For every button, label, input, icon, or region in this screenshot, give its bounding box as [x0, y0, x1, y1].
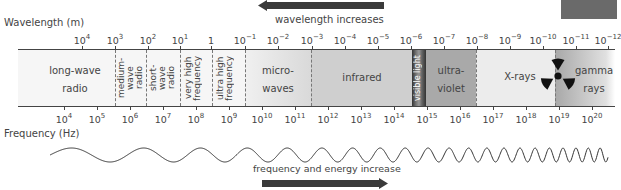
tick-mark: [148, 46, 149, 50]
wavelength-tick-label: 10−2: [267, 35, 289, 46]
tick-mark: [543, 46, 544, 50]
tick-mark: [82, 46, 83, 50]
tick-mark: [211, 46, 212, 50]
tick-mark: [460, 106, 461, 110]
divider: [476, 50, 477, 106]
wavelength-tick-label: 102: [140, 35, 157, 46]
divider: [146, 50, 147, 106]
label-ultraviolet: ultra- violet: [430, 62, 472, 98]
wavelength-tick-label: 10−10: [530, 35, 557, 46]
wavelength-tick-label: 101: [172, 35, 189, 46]
label-long-wave-radio: long-wave radio: [40, 62, 110, 98]
frequency-tick-label: 107: [155, 114, 172, 125]
wavelength-tick-label: 10−7: [433, 35, 455, 46]
wavelength-tick-label: 103: [107, 35, 124, 46]
tick-mark: [97, 106, 98, 110]
frequency-tick-label: 1017: [482, 114, 503, 125]
tick-mark: [180, 46, 181, 50]
tick-mark: [510, 46, 511, 50]
radiation-trefoil-icon: [540, 58, 576, 94]
wavelength-tick-label: 1: [208, 35, 214, 46]
wavelength-axis-line: [18, 49, 615, 50]
wavelength-tick-label: 10−12: [595, 35, 621, 46]
divider: [311, 50, 312, 106]
wavelength-tick-label: 10−8: [466, 35, 488, 46]
tick-mark: [115, 46, 116, 50]
tick-mark: [278, 46, 279, 50]
tick-mark: [477, 46, 478, 50]
wavelength-tick-label: 10−4: [334, 35, 356, 46]
wavelength-increases-arrow: [258, 0, 384, 12]
tick-mark: [526, 106, 527, 110]
label-visible-light: visible light: [413, 51, 425, 105]
tick-mark: [427, 106, 428, 110]
frequency-tick-label: 108: [188, 114, 205, 125]
wavelength-tick-label: 10−5: [367, 35, 389, 46]
label-very-high-frequency: very highfrequency: [184, 51, 208, 105]
label-medium-wave-radio: medium-waveradio: [117, 54, 145, 102]
frequency-tick-label: 1011: [284, 114, 305, 125]
tick-mark: [245, 46, 246, 50]
wavelength-tick-label: 10−1: [234, 35, 256, 46]
wavelength-axis-label: Wavelength (m): [4, 17, 84, 28]
frequency-tick-label: 109: [221, 114, 238, 125]
divider: [212, 50, 213, 106]
tick-mark: [411, 46, 412, 50]
tick-mark: [130, 106, 131, 110]
frequency-tick-label: 1014: [383, 114, 404, 125]
frequency-tick-label: 1016: [449, 114, 470, 125]
wavelength-arrow-text: wavelength increases: [275, 14, 384, 25]
frequency-tick-label: 1018: [515, 114, 536, 125]
label-gamma-rays: gamma rays: [572, 62, 616, 98]
wavelength-tick-label: 10−11: [563, 35, 590, 46]
frequency-axis-label: Frequency (Hz): [4, 128, 79, 139]
tick-mark: [262, 106, 263, 110]
label-infrared: infrared: [330, 71, 394, 84]
tick-mark: [345, 46, 346, 50]
tick-mark: [64, 106, 65, 110]
tick-mark: [163, 106, 164, 110]
wavelength-tick-label: 10−3: [301, 35, 323, 46]
divider: [245, 50, 246, 106]
tick-mark: [196, 106, 197, 110]
frequency-tick-label: 106: [122, 114, 139, 125]
frequency-energy-arrow: [262, 178, 388, 190]
label-short-wave-radio: short-waveradio: [149, 56, 177, 100]
tick-mark: [328, 106, 329, 110]
frequency-tick-label: 1013: [350, 114, 371, 125]
frequency-arrow-text: frequency and energy increase: [253, 163, 401, 174]
wavelength-tick-label: 104: [74, 35, 91, 46]
tick-mark: [378, 46, 379, 50]
frequency-tick-label: 1012: [317, 114, 338, 125]
frequency-tick-label: 104: [56, 114, 73, 125]
tick-mark: [295, 106, 296, 110]
tick-mark: [229, 106, 230, 110]
corner-badge: [561, 0, 617, 19]
tick-mark: [361, 106, 362, 110]
frequency-tick-label: 1010: [251, 114, 272, 125]
frequency-tick-label: 1015: [416, 114, 437, 125]
tick-mark: [394, 106, 395, 110]
wavelength-tick-label: 10−9: [499, 35, 521, 46]
wavelength-tick-label: 10−6: [400, 35, 422, 46]
tick-mark: [493, 106, 494, 110]
frequency-tick-label: 1020: [581, 114, 602, 125]
label-microwaves: micro- waves: [252, 62, 304, 98]
tick-mark: [608, 46, 609, 50]
tick-mark: [559, 106, 560, 110]
label-ultra-high-frequency: ultra highfrequency: [216, 51, 240, 105]
tick-mark: [592, 106, 593, 110]
tick-mark: [576, 46, 577, 50]
label-x-rays: X-rays: [500, 70, 540, 83]
divider: [180, 50, 181, 106]
frequency-tick-label: 1019: [548, 114, 569, 125]
frequency-tick-label: 105: [89, 114, 106, 125]
tick-mark: [312, 46, 313, 50]
tick-mark: [444, 46, 445, 50]
